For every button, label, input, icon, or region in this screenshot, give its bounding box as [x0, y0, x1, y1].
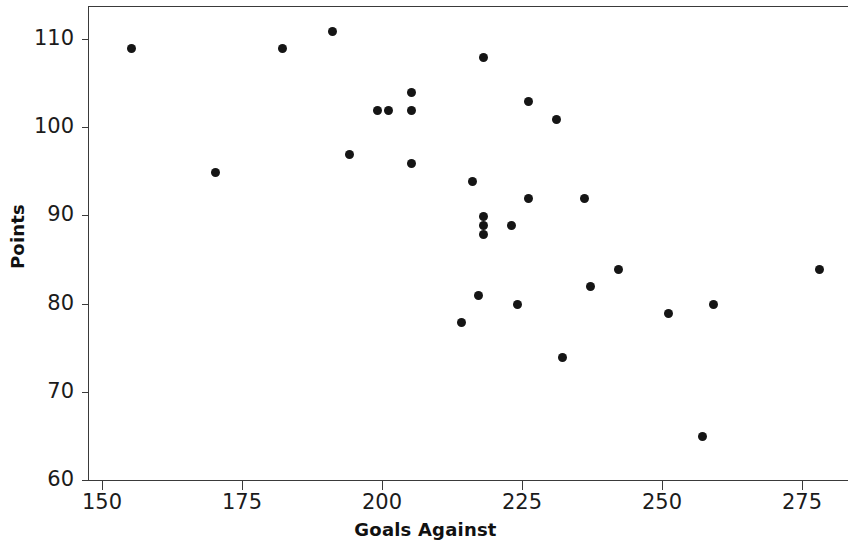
data-point [468, 177, 477, 186]
y-axis-title: Points [7, 187, 28, 287]
data-point [345, 150, 354, 159]
data-point [552, 115, 561, 124]
x-axis-tick [802, 481, 803, 490]
data-point [373, 106, 382, 115]
x-axis-tick-label: 175 [202, 492, 282, 513]
y-axis-tick-label: 80 [8, 293, 74, 314]
data-point [524, 194, 533, 203]
x-axis-title: Goals Against [0, 519, 851, 540]
data-point [407, 106, 416, 115]
x-axis-tick-label: 150 [62, 492, 142, 513]
data-point [479, 230, 488, 239]
data-point [479, 212, 488, 221]
plot-frame [88, 6, 848, 481]
scatter-plot-figure: 60708090100110 150175200225250275 Goals … [0, 0, 851, 544]
data-point [614, 265, 623, 274]
data-point [580, 194, 589, 203]
data-point [664, 309, 673, 318]
data-point [457, 318, 466, 327]
data-points-layer [89, 7, 848, 480]
y-axis-tick-label: 70 [8, 381, 74, 402]
data-point [278, 44, 287, 53]
y-axis-tick-label: 100 [8, 116, 74, 137]
data-point [127, 44, 136, 53]
data-point [586, 282, 595, 291]
y-axis-tick-label: 60 [8, 469, 74, 490]
data-point [513, 300, 522, 309]
x-axis-tick [102, 481, 103, 490]
data-point [815, 265, 824, 274]
data-point [479, 53, 488, 62]
data-point [507, 221, 516, 230]
x-axis-tick [522, 481, 523, 490]
x-axis-tick-label: 250 [622, 492, 702, 513]
data-point [328, 27, 337, 36]
x-axis-tick [382, 481, 383, 490]
data-point [384, 106, 393, 115]
x-axis-tick [662, 481, 663, 490]
data-point [558, 353, 567, 362]
data-point [479, 221, 488, 230]
x-axis-tick-label: 275 [762, 492, 842, 513]
y-axis-tick-label: 110 [8, 28, 74, 49]
data-point [709, 300, 718, 309]
x-axis-tick [242, 481, 243, 490]
data-point [407, 159, 416, 168]
data-point [524, 97, 533, 106]
x-axis-tick-label: 200 [342, 492, 422, 513]
data-point [474, 291, 483, 300]
x-axis-tick-label: 225 [482, 492, 562, 513]
data-point [211, 168, 220, 177]
data-point [698, 432, 707, 441]
data-point [407, 88, 416, 97]
